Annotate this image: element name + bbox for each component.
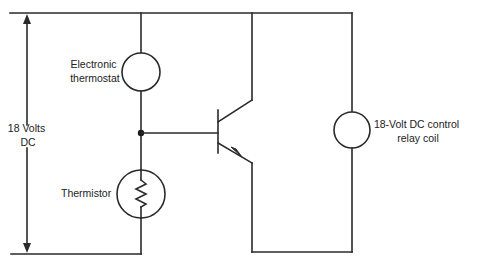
thermistor-label: Thermistor	[61, 187, 112, 199]
supply-voltage-label: 18 Volts DC	[8, 122, 48, 148]
circuit-diagram: 18 Volts DC Electronic thermostat Thermi…	[0, 0, 477, 270]
thermostat-circle-icon	[122, 53, 160, 91]
relay-coil-circle-icon	[334, 112, 370, 148]
relay-coil-label: 18-Volt DC control relay coil	[374, 118, 462, 144]
npn-transistor-icon	[218, 100, 252, 163]
thermostat-label: Electronic thermostat	[70, 58, 120, 84]
thermistor-icon	[117, 170, 165, 218]
